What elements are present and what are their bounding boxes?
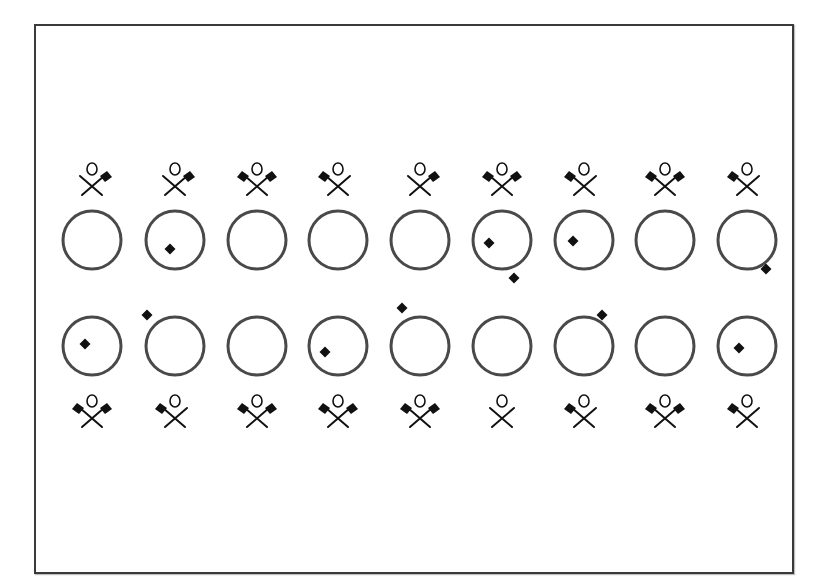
head-icon [660, 395, 670, 407]
flag-right-icon [428, 171, 440, 182]
bottom-figure-5 [400, 395, 440, 427]
top-circle-5 [391, 211, 449, 269]
top-circle-8 [636, 211, 694, 269]
top-circle-1 [63, 211, 121, 269]
ring-icon [309, 317, 367, 375]
limb-icon [82, 408, 104, 427]
ring-icon [63, 211, 121, 269]
head-icon [333, 395, 343, 407]
limb-icon [247, 176, 269, 195]
ring-icon [63, 317, 121, 375]
ring-icon [636, 317, 694, 375]
limb-icon [653, 408, 675, 427]
limb-icon [328, 176, 350, 195]
top-circle-3 [228, 211, 286, 269]
bottom-circle-7 [555, 310, 613, 376]
limb-icon [408, 408, 430, 427]
ring-icon [555, 211, 613, 269]
limb-icon [80, 176, 102, 195]
diagram-canvas [0, 0, 824, 587]
head-icon [170, 163, 180, 175]
top-figure-8 [645, 163, 685, 195]
bottom-circle-2 [142, 310, 205, 376]
ring-icon [391, 317, 449, 375]
bottom-circle-5 [391, 303, 449, 376]
bottom-figure-9 [727, 395, 759, 427]
limb-icon [410, 176, 432, 195]
bottom-circle-6 [473, 317, 531, 375]
limb-icon [410, 408, 432, 427]
ring-icon [473, 317, 531, 375]
flag-right-icon [100, 403, 112, 414]
head-icon [497, 163, 507, 175]
limb-icon [326, 408, 348, 427]
flag-left-icon [482, 171, 494, 182]
bottom-circle-3 [228, 317, 286, 375]
limb-icon [247, 408, 269, 427]
limb-icon [326, 176, 348, 195]
ring-icon [555, 317, 613, 375]
top-figure-9 [727, 163, 759, 195]
top-figure-4 [318, 163, 350, 195]
flag-right-icon [510, 171, 522, 182]
marker-diamond-icon [597, 310, 608, 321]
marker-diamond-icon [484, 238, 495, 249]
limb-icon [165, 176, 187, 195]
limb-icon [245, 408, 267, 427]
bottom-figure-8 [645, 395, 685, 427]
ring-icon [228, 317, 286, 375]
flag-left-icon [400, 403, 412, 414]
limb-icon [737, 176, 759, 195]
flag-left-icon [237, 171, 249, 182]
limb-icon [574, 408, 596, 427]
head-icon [252, 395, 262, 407]
flag-left-icon [237, 403, 249, 414]
marker-diamond-icon [509, 273, 520, 284]
flag-left-icon [727, 171, 739, 182]
bottom-figure-2 [155, 395, 187, 427]
top-circle-6 [473, 211, 531, 284]
flag-left-icon [645, 403, 657, 414]
flag-left-icon [72, 403, 84, 414]
flag-right-icon [346, 403, 358, 414]
head-icon [415, 163, 425, 175]
head-icon [87, 395, 97, 407]
bottom-figure-4 [318, 395, 358, 427]
bottom-circle-9 [718, 317, 776, 375]
flag-left-icon [155, 403, 167, 414]
top-figure-7 [564, 163, 596, 195]
marker-diamond-icon [80, 339, 91, 350]
marker-diamond-icon [165, 244, 176, 255]
bottom-figure-6 [490, 395, 514, 427]
flag-right-icon [100, 171, 112, 182]
head-icon [497, 395, 507, 407]
flag-left-icon [564, 171, 576, 182]
flag-left-icon [318, 403, 330, 414]
head-icon [252, 163, 262, 175]
flag-right-icon [265, 171, 277, 182]
bottom-figure-7 [564, 395, 596, 427]
flag-right-icon [673, 403, 685, 414]
limb-icon [328, 408, 350, 427]
ring-icon [146, 317, 204, 375]
bottom-figure-3 [237, 395, 277, 427]
top-figure-3 [237, 163, 277, 195]
top-figure-6 [482, 163, 522, 195]
flag-right-icon [428, 403, 440, 414]
head-icon [87, 163, 97, 175]
bottom-circle-4 [309, 317, 367, 375]
ring-icon [309, 211, 367, 269]
limb-icon [490, 176, 512, 195]
diagram-stage [0, 0, 824, 587]
ring-icon [636, 211, 694, 269]
ring-icon [473, 211, 531, 269]
flag-right-icon [265, 403, 277, 414]
limb-icon [163, 408, 185, 427]
flag-right-icon [673, 171, 685, 182]
head-icon [333, 163, 343, 175]
limb-icon [653, 176, 675, 195]
limb-icon [492, 176, 514, 195]
limb-icon [80, 408, 102, 427]
limb-icon [655, 176, 677, 195]
ring-icon [391, 211, 449, 269]
